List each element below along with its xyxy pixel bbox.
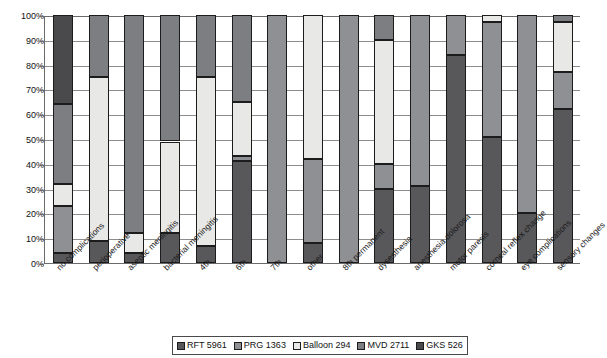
stacked-bar[interactable] [303, 16, 323, 263]
plot-area [44, 16, 580, 264]
bar-segment[interactable] [232, 102, 252, 157]
y-axis-tick-label: 60% [6, 111, 44, 120]
bar-segment[interactable] [53, 184, 73, 206]
bars-layer [45, 16, 580, 263]
stacked-bar[interactable] [482, 16, 502, 263]
x-axis-labels: no complicationsperioperativeaseptic men… [44, 266, 580, 328]
bar-segment[interactable] [446, 15, 466, 55]
bar-segment[interactable] [124, 15, 144, 233]
legend-item[interactable]: PRG 1363 [234, 341, 286, 350]
stacked-bar[interactable] [410, 16, 430, 263]
bar-segment[interactable] [196, 15, 216, 77]
y-axis-tick-label: 10% [6, 235, 44, 244]
legend-label: RFT 5961 [187, 341, 227, 350]
bar-column [124, 16, 144, 263]
bar-segment[interactable] [374, 40, 394, 164]
legend-swatch-icon [177, 342, 185, 350]
bar-segment[interactable] [553, 15, 573, 22]
legend-label: Balloon 294 [303, 341, 351, 350]
stacked-bar[interactable] [53, 16, 73, 263]
bar-segment[interactable] [232, 15, 252, 102]
bar-segment[interactable] [482, 15, 502, 22]
bar-column [232, 16, 252, 263]
bar-segment[interactable] [339, 15, 359, 263]
bar-segment[interactable] [160, 15, 180, 141]
bar-segment[interactable] [53, 104, 73, 183]
bar-column [267, 16, 287, 263]
bar-column [303, 16, 323, 263]
bar-segment[interactable] [53, 15, 73, 104]
bar-segment[interactable] [89, 15, 109, 77]
bar-segment[interactable] [482, 22, 502, 136]
bar-segment[interactable] [482, 137, 502, 263]
bar-segment[interactable] [232, 156, 252, 161]
y-axis-tick-mark [40, 264, 44, 265]
stacked-bar[interactable] [339, 16, 359, 263]
stacked-bar[interactable] [232, 16, 252, 263]
bar-segment[interactable] [303, 159, 323, 243]
legend-swatch-icon [416, 342, 424, 350]
y-axis-tick-label: 40% [6, 161, 44, 170]
y-axis-tick-label: 70% [6, 86, 44, 95]
bar-segment[interactable] [553, 22, 573, 72]
plot-wrapper [44, 16, 580, 264]
bar-segment[interactable] [553, 72, 573, 109]
y-axis: 0%10%20%30%40%50%60%70%80%90%100% [0, 16, 44, 264]
y-axis-tick-label: 50% [6, 136, 44, 145]
bar-column [482, 16, 502, 263]
bar-column [410, 16, 430, 263]
bar-segment[interactable] [89, 77, 109, 241]
y-axis-tick-label: 0% [6, 260, 44, 269]
legend-swatch-icon [293, 342, 301, 350]
stacked-bar[interactable] [267, 16, 287, 263]
chart-legend: RFT 5961PRG 1363Balloon 294MVD 2711GKS 5… [172, 336, 468, 355]
legend-item[interactable]: MVD 2711 [357, 341, 409, 350]
bar-column [374, 16, 394, 263]
y-axis-tick-label: 100% [6, 12, 44, 21]
legend-label: GKS 526 [426, 341, 463, 350]
y-axis-tick-label: 80% [6, 62, 44, 71]
y-axis-tick-label: 90% [6, 37, 44, 46]
stacked-bar[interactable] [124, 16, 144, 263]
stacked-bar[interactable] [374, 16, 394, 263]
bar-segment[interactable] [410, 15, 430, 186]
bar-segment[interactable] [267, 15, 287, 263]
bar-segment[interactable] [517, 15, 537, 213]
bar-segment[interactable] [303, 15, 323, 159]
bar-segment[interactable] [53, 206, 73, 253]
bar-column [53, 16, 73, 263]
legend-item[interactable]: Balloon 294 [293, 341, 351, 350]
bar-column [339, 16, 359, 263]
legend-swatch-icon [234, 342, 242, 350]
bar-segment[interactable] [374, 164, 394, 189]
legend-swatch-icon [357, 342, 365, 350]
bar-segment[interactable] [232, 161, 252, 263]
legend-label: PRG 1363 [244, 341, 286, 350]
bar-segment[interactable] [374, 15, 394, 40]
legend-label: MVD 2711 [367, 341, 409, 350]
y-axis-tick-label: 30% [6, 186, 44, 195]
legend-item[interactable]: GKS 526 [416, 341, 463, 350]
y-axis-tick-label: 20% [6, 210, 44, 219]
legend-item[interactable]: RFT 5961 [177, 341, 227, 350]
